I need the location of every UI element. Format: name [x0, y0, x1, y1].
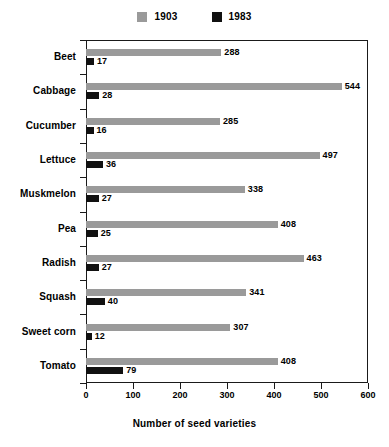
x-axis-tick — [133, 383, 134, 389]
legend-swatch-1983 — [212, 12, 222, 22]
y-axis-tick — [80, 246, 86, 247]
x-axis-tick-label: 400 — [266, 391, 281, 400]
y-axis-tick — [80, 280, 86, 281]
category-label-cabbage: Cabbage — [33, 86, 76, 96]
x-axis: 0100200300400500600 — [86, 383, 368, 413]
seed-varieties-bar-chart: 1903 1983 BeetCabbageCucumberLettuceMusk… — [0, 0, 389, 447]
x-axis-tick-label: 0 — [83, 391, 88, 400]
x-axis-tick-label: 100 — [125, 391, 140, 400]
y-axis-tick — [80, 143, 86, 144]
x-axis-tick-label: 200 — [172, 391, 187, 400]
y-axis-tick — [80, 40, 86, 41]
legend-label-1983: 1983 — [229, 12, 252, 22]
x-axis-title: Number of seed varieties — [0, 418, 389, 429]
y-axis-tick — [80, 177, 86, 178]
category-label-squash: Squash — [39, 292, 76, 302]
category-label-tomato: Tomato — [40, 361, 76, 371]
legend-entry-1983: 1983 — [212, 12, 252, 22]
x-axis-tick — [368, 383, 369, 389]
category-label-beet: Beet — [54, 52, 76, 62]
legend-swatch-1903 — [137, 12, 147, 22]
y-axis: BeetCabbageCucumberLettuceMuskmelonPeaRa… — [0, 40, 86, 383]
legend-label-1903: 1903 — [154, 12, 177, 22]
y-axis-tick — [80, 74, 86, 75]
plot-area-frame — [86, 40, 368, 383]
x-axis-tick — [274, 383, 275, 389]
x-axis-tick — [321, 383, 322, 389]
category-label-cucumber: Cucumber — [26, 121, 76, 131]
chart-legend: 1903 1983 — [0, 12, 389, 22]
x-axis-tick-label: 600 — [360, 391, 375, 400]
x-axis-tick — [180, 383, 181, 389]
y-axis-tick — [80, 109, 86, 110]
x-axis-tick — [227, 383, 228, 389]
y-axis-tick — [80, 314, 86, 315]
category-label-lettuce: Lettuce — [40, 155, 76, 165]
x-axis-tick — [86, 383, 87, 389]
x-axis-tick-label: 500 — [313, 391, 328, 400]
y-axis-tick — [80, 349, 86, 350]
y-axis-tick — [80, 212, 86, 213]
category-label-radish: Radish — [42, 258, 76, 268]
legend-entry-1903: 1903 — [137, 12, 177, 22]
x-axis-tick-label: 300 — [219, 391, 234, 400]
category-label-pea: Pea — [58, 224, 76, 234]
category-label-sweet-corn: Sweet corn — [22, 327, 76, 337]
category-label-muskmelon: Muskmelon — [20, 189, 76, 199]
